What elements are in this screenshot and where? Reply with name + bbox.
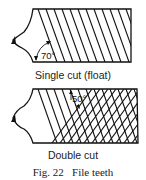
figure-caption: Fig. 22 File teeth [0, 166, 146, 178]
figure-number: Fig. 22 [33, 166, 64, 178]
figure-title: File teeth [72, 166, 113, 178]
angle-label-50: 50° [72, 93, 87, 104]
angle-label-70: 70° [41, 50, 56, 61]
double-cut-file: 50° [11, 89, 146, 143]
single-cut-file: 70° [11, 9, 145, 62]
single-cut-caption: Single cut (float) [0, 69, 146, 81]
double-cut-caption: Double cut [0, 149, 146, 161]
